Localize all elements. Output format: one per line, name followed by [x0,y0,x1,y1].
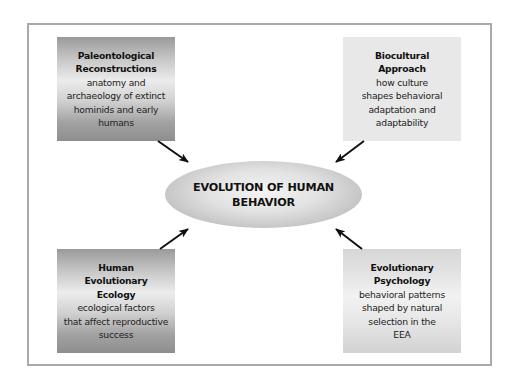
box-title-line: Ecology [97,288,136,302]
central-ellipse: EVOLUTION OF HUMAN BEHAVIOR [165,161,362,228]
central-title-line: BEHAVIOR [232,195,295,210]
box-title-line: Human [98,261,134,275]
box-description-line: ecological factors [77,301,154,315]
box-description-line: that affect reproductive [64,315,168,329]
box-description-line: humans [98,116,134,130]
central-title-line: EVOLUTION OF HUMAN [193,180,334,195]
box-paleontological-reconstructions: Paleontological Reconstructions anatomy … [57,37,175,141]
box-human-evolutionary-ecology: Human Evolutionary Ecology ecological fa… [57,249,175,353]
box-title-line: Psychology [374,274,430,288]
box-description-line: archaeology of extinct [67,89,165,103]
box-title-line: Reconstructions [76,62,157,76]
box-title-line: Evolutionary [85,274,148,288]
box-description-line: success [99,328,134,342]
box-description-line: selection in the [368,315,435,329]
box-description-line: adaptability [376,116,428,130]
box-description-line: anatomy and [87,76,146,90]
box-title-line: Biocultural [375,49,429,63]
box-evolutionary-psychology: Evolutionary Psychology behavioral patte… [343,249,461,353]
box-description-line: adaptation and [368,103,435,117]
box-title-line: Evolutionary [371,261,434,275]
box-description-line: hominids and early [74,103,159,117]
box-description-line: shapes behavioral [362,89,443,103]
box-title-line: Approach [378,62,426,76]
box-description-line: behavioral patterns [359,288,445,302]
box-description-line: shaped by natural [362,301,442,315]
box-description-line: how culture [376,76,428,90]
box-biocultural-approach: Biocultural Approach how culture shapes … [343,37,461,141]
box-description-line: EEA [393,328,410,342]
box-title-line: Paleontological [78,49,155,63]
